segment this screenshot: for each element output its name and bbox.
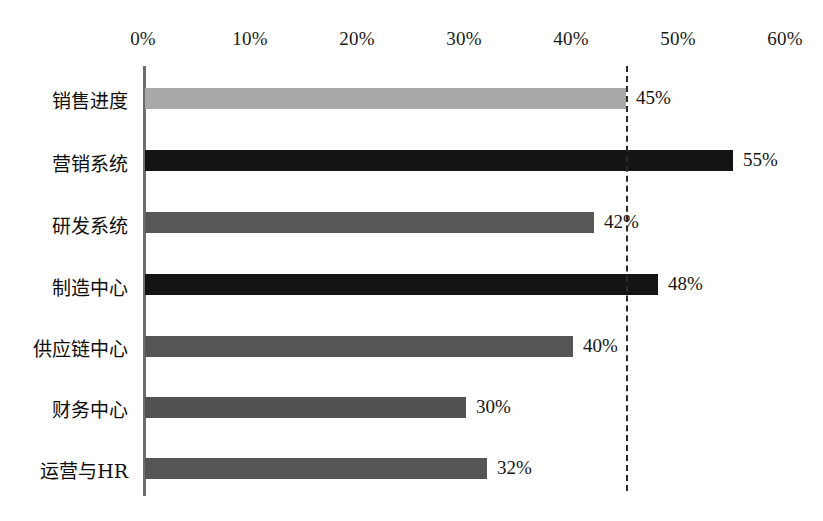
x-tick-30: 30% <box>446 28 481 50</box>
category-label-wrap-5: 供应链中心 <box>0 334 128 358</box>
x-tick-0: 0% <box>130 28 156 50</box>
bar-marketing-system[interactable] <box>145 150 733 171</box>
x-tick-20: 20% <box>339 28 374 50</box>
bar-supply-chain-center[interactable] <box>145 336 573 357</box>
bar-finance-center[interactable] <box>145 397 466 418</box>
x-tick-50: 50% <box>660 28 695 50</box>
category-label-wrap-1: 销售进度 <box>0 86 128 110</box>
category-label-marketing-system: 营销系统 <box>52 149 128 176</box>
bar-operations-hr[interactable] <box>145 458 487 479</box>
category-label-wrap-3: 研发系统 <box>0 211 128 235</box>
bar-value-sales-progress: 45% <box>636 87 671 109</box>
x-tick-40: 40% <box>553 28 588 50</box>
category-label-sales-progress: 销售进度 <box>52 86 128 113</box>
category-label-supply-chain-center: 供应链中心 <box>33 334 128 361</box>
bar-value-finance-center: 30% <box>476 396 511 418</box>
bar-rnd-system[interactable] <box>145 212 594 233</box>
bar-value-rnd-system: 42% <box>604 211 639 233</box>
category-label-wrap-4: 制造中心 <box>0 273 128 297</box>
bar-value-marketing-system: 55% <box>743 149 778 171</box>
bar-sales-progress[interactable] <box>145 88 626 109</box>
bar-value-supply-chain-center: 40% <box>583 335 618 357</box>
category-label-finance-center: 财务中心 <box>52 395 128 422</box>
bar-value-manufacturing-center: 48% <box>668 273 703 295</box>
x-tick-10: 10% <box>232 28 267 50</box>
bar-value-operations-hr: 32% <box>497 457 532 479</box>
category-label-operations-hr: 运营与HR <box>40 456 128 483</box>
target-reference-line <box>626 66 628 491</box>
category-label-manufacturing-center: 制造中心 <box>52 273 128 300</box>
bar-chart: 0% 10% 20% 30% 40% 50% 60% 销售进度 营销系统 研发系… <box>0 0 823 521</box>
category-label-wrap-6: 财务中心 <box>0 395 128 419</box>
category-label-wrap-7: 运营与HR <box>0 456 128 480</box>
bar-manufacturing-center[interactable] <box>145 274 658 295</box>
x-tick-60: 60% <box>767 28 802 50</box>
category-label-wrap-2: 营销系统 <box>0 149 128 173</box>
category-label-rnd-system: 研发系统 <box>52 211 128 238</box>
